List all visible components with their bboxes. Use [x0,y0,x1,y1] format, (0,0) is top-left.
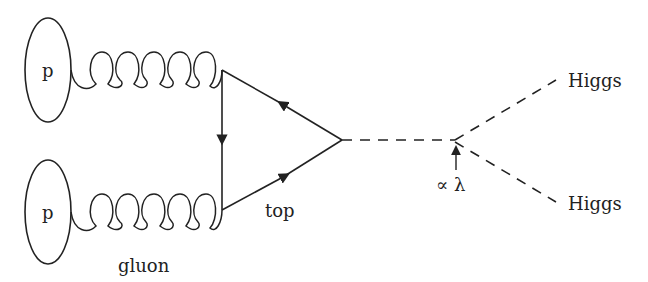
top-loop [222,70,342,210]
higgs-bottom-label: Higgs [568,193,622,214]
proton-bottom-label: p [42,202,54,223]
coupling-label: ∝ λ [436,174,465,195]
gluon-bottom [71,194,222,230]
proton-top: p [25,18,71,122]
gluon-label: gluon [118,255,170,276]
proton-bottom: p [25,160,71,264]
proton-top-label: p [42,60,54,81]
feynman-diagram: p p gluon top Higgs Higgs ∝ λ [0,0,648,282]
higgs-top-label: Higgs [568,70,622,91]
gluon-top [71,52,222,88]
top-label: top [265,200,295,221]
